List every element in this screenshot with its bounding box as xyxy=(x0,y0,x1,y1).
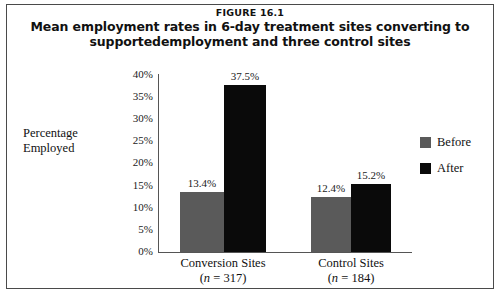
y-tick-label-10: 10% xyxy=(107,202,153,213)
group-n-conversion: (n = 317) xyxy=(163,271,283,286)
legend-label-before: Before xyxy=(437,136,471,149)
x-axis-line xyxy=(158,252,412,253)
bar-conversion-before xyxy=(180,192,224,252)
group-name-control: Control Sites xyxy=(318,256,384,270)
n-value-control: = 184) xyxy=(338,271,374,285)
group-name-conversion: Conversion Sites xyxy=(180,256,265,270)
figure-container: FIGURE 16.1 Mean employment rates in 6-d… xyxy=(0,0,504,301)
y-tick-label-5: 5% xyxy=(107,224,153,235)
y-axis-title: Percentage Employed xyxy=(23,126,118,156)
legend-swatch-after-icon xyxy=(420,163,431,174)
y-tick-label-30: 30% xyxy=(107,113,153,124)
figure-title-line-1: Mean employment rates in 6-day treatment… xyxy=(14,19,486,34)
legend-swatch-before-icon xyxy=(420,137,431,148)
plot-area: 13.4% 37.5% 12.4% 15.2% xyxy=(158,74,412,252)
y-tick-label-0: 0% xyxy=(107,246,153,257)
bar-value-control-after: 15.2% xyxy=(343,170,399,181)
bar-control-after xyxy=(351,184,391,252)
legend-item-after: After xyxy=(420,162,486,175)
bar-value-conversion-before: 13.4% xyxy=(174,178,230,189)
bar-control-before xyxy=(311,197,351,252)
y-axis-line xyxy=(158,74,159,253)
figure-caption: FIGURE 16.1 Mean employment rates in 6-d… xyxy=(14,7,486,49)
y-tick-label-15: 15% xyxy=(107,180,153,191)
bar-value-control-before: 12.4% xyxy=(303,183,359,194)
y-tick-label-35: 35% xyxy=(107,91,153,102)
legend-label-after: After xyxy=(437,162,463,175)
legend-item-before: Before xyxy=(420,136,486,149)
bar-conversion-after xyxy=(224,85,266,252)
group-label-control-sites: Control Sites (n = 184) xyxy=(293,256,409,286)
y-tick-label-20: 20% xyxy=(107,157,153,168)
y-tick-label-40: 40% xyxy=(107,69,153,80)
y-axis-tick-labels: 40% 35% 30% 25% 20% 15% 10% 5% 0% xyxy=(106,74,153,259)
figure-title-line-2: supportedemployment and three control si… xyxy=(14,34,486,49)
n-value-conversion: = 317) xyxy=(210,271,246,285)
figure-number: FIGURE 16.1 xyxy=(14,7,486,19)
y-tick-label-25: 25% xyxy=(107,135,153,146)
chart-legend: Before After xyxy=(420,136,486,188)
group-label-conversion-sites: Conversion Sites (n = 317) xyxy=(163,256,283,286)
group-n-control: (n = 184) xyxy=(293,271,409,286)
bar-value-conversion-after: 37.5% xyxy=(217,71,273,82)
